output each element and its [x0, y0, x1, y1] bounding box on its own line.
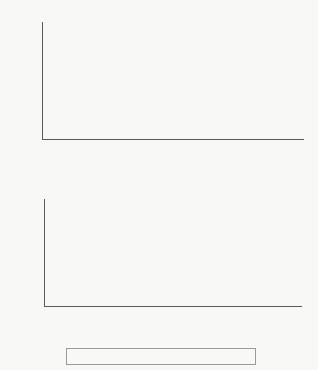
top-chart-plot-area — [42, 22, 304, 140]
bottom-chart-bars — [45, 199, 302, 307]
bottom-bar-chart — [0, 182, 318, 370]
bottom-chart-legend — [66, 348, 256, 365]
top-chart-bars — [43, 22, 304, 140]
top-bar-chart — [0, 0, 318, 182]
bottom-chart-plot-area — [44, 199, 302, 307]
